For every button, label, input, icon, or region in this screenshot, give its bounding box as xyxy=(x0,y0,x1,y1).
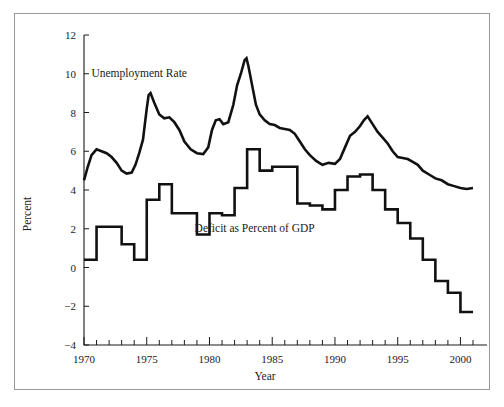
y-axis-title: Percent xyxy=(21,196,33,231)
x-tick-label: 1975 xyxy=(136,353,159,365)
x-tick-label: 1985 xyxy=(261,353,284,365)
x-tick-label: 1970 xyxy=(73,353,96,365)
y-tick-label: 6 xyxy=(71,145,77,157)
axis-lines xyxy=(84,35,487,345)
y-tick-label: −2 xyxy=(64,300,76,312)
axes-group: −4−2024681012197019751980198519901995200… xyxy=(64,29,487,365)
x-tick-label: 1980 xyxy=(198,353,221,365)
x-tick-label: 1995 xyxy=(387,353,410,365)
y-tick-label: 10 xyxy=(65,68,77,80)
x-tick-label: 1990 xyxy=(324,353,347,365)
y-tick-label: 8 xyxy=(71,107,77,119)
series-group xyxy=(84,58,473,312)
y-tick-label: 4 xyxy=(71,184,77,196)
y-tick-label: 0 xyxy=(71,262,77,274)
deficit-gdp-label: Deficit as Percent of GDP xyxy=(195,222,315,234)
y-tick-label: −4 xyxy=(64,339,76,351)
economic-indicators-chart: −4−2024681012197019751980198519901995200… xyxy=(15,14,489,389)
y-tick-label: 12 xyxy=(65,29,76,41)
x-tick-label: 2000 xyxy=(449,353,472,365)
x-axis-title: Year xyxy=(254,370,275,382)
figure-frame: −4−2024681012197019751980198519901995200… xyxy=(14,13,490,390)
annotations-group: Unemployment RateDeficit as Percent of G… xyxy=(91,67,314,234)
y-tick-label: 2 xyxy=(71,223,77,235)
chart-page: −4−2024681012197019751980198519901995200… xyxy=(0,0,504,407)
unemployment-rate-label: Unemployment Rate xyxy=(91,67,187,80)
